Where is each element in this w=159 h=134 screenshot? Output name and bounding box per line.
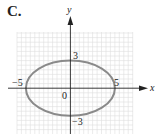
y-axis-arrow-icon — [68, 16, 74, 25]
tick-label-y-neg: −3 — [72, 116, 83, 127]
x-axis-arrow-icon — [139, 85, 148, 91]
tick-label-x-neg: −5 — [12, 77, 23, 88]
ellipse-graph: y x 0 3 −3 −5 5 — [0, 0, 159, 134]
tick-label-x-pos: 5 — [114, 77, 119, 88]
tick-label-y-pos: 3 — [73, 50, 78, 61]
x-axis-label: x — [149, 82, 155, 93]
origin-label: 0 — [62, 90, 67, 101]
y-axis-label: y — [66, 4, 72, 15]
